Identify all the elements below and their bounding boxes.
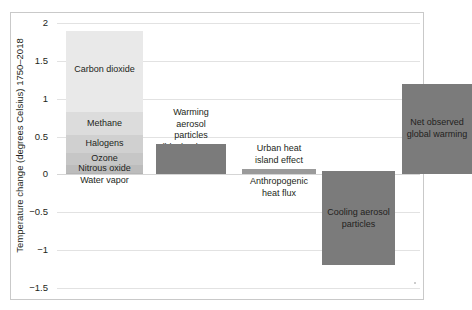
warming-line-1: Warming	[150, 107, 232, 119]
net-line-2: global warming	[402, 129, 472, 141]
urban-line-1: Urban heat	[235, 143, 323, 155]
cooling-line-1: Cooling aerosol	[322, 207, 395, 219]
anthro-line-2: heat flux	[235, 188, 323, 200]
y-axis-tick-labels: 2 1.5 1 0.5 0 −0.5 −1 −1.5	[0, 0, 54, 310]
segment-label-methane: Methane	[66, 118, 143, 129]
bar-label-anthropogenic-heat-flux: Anthropogenic heat flux	[235, 176, 323, 199]
bar-label-cooling-aerosol-particles: Cooling aerosol particles	[322, 207, 395, 230]
segment-label-halogens: Halogens	[66, 138, 143, 149]
bar-urban-heat-island-effect[interactable]	[242, 169, 316, 174]
y-axis-title: Temperature change (degrees Celsius) 175…	[14, 21, 25, 271]
segment-nitrous-oxide[interactable]: Nitrous oxide	[66, 165, 143, 173]
segment-label-water-vapor: Water vapor	[66, 175, 143, 187]
gridline-2	[57, 23, 420, 24]
segment-water-vapor[interactable]	[66, 173, 143, 174]
segment-halogens[interactable]: Halogens	[66, 135, 143, 153]
bar-label-urban-heat-island-effect: Urban heat island effect	[235, 143, 323, 166]
warming-line-2: aerosol	[150, 119, 232, 131]
net-line-1: Net observed	[402, 117, 472, 129]
bar-net-observed-global-warming[interactable]: Net observed global warming	[402, 84, 472, 174]
gridline--1.5	[57, 288, 420, 289]
warming-line-3: particles	[150, 130, 232, 142]
bar-greenhouse-gases[interactable]: Carbon dioxide Methane Halogens Ozone Ni…	[66, 31, 143, 174]
segment-carbon-dioxide[interactable]: Carbon dioxide	[66, 31, 143, 112]
corner-dot-marker	[414, 282, 416, 284]
bar-cooling-aerosol-particles[interactable]: Cooling aerosol particles	[322, 171, 395, 265]
y-tick--1.5: −1.5	[0, 283, 48, 293]
cooling-line-2: particles	[322, 219, 395, 231]
bar-label-net-observed-global-warming: Net observed global warming	[402, 117, 472, 140]
urban-line-2: island effect	[235, 155, 323, 167]
segment-methane[interactable]: Methane	[66, 112, 143, 135]
bar-warming-aerosol-particles[interactable]	[156, 144, 226, 174]
plot-area: Carbon dioxide Methane Halogens Ozone Ni…	[57, 23, 420, 288]
anthro-line-1: Anthropogenic	[235, 176, 323, 188]
segment-label-carbon-dioxide: Carbon dioxide	[66, 64, 143, 75]
